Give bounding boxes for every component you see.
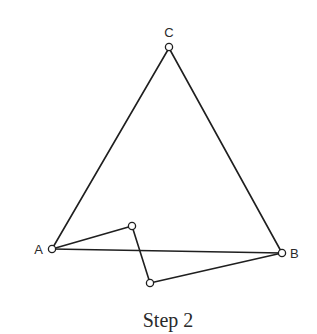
- vertex-b: [278, 249, 285, 256]
- caption: Step 2: [143, 309, 194, 332]
- vertex-c: [165, 43, 172, 50]
- vertex-p1: [128, 222, 135, 229]
- edge-p1-p2: [132, 226, 150, 283]
- triangle-diagram: C A B Step 2: [0, 0, 317, 334]
- vertex-a: [48, 245, 55, 252]
- edge-a-b: [52, 249, 282, 253]
- edge-p2-b: [150, 253, 282, 283]
- vertex-p2: [146, 279, 153, 286]
- edge-a-c: [52, 48, 169, 249]
- label-b: B: [290, 246, 299, 261]
- label-a: A: [34, 242, 43, 257]
- edge-c-b: [169, 48, 282, 253]
- label-c: C: [164, 25, 173, 40]
